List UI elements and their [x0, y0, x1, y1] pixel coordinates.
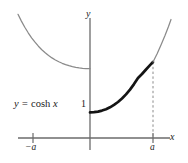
curve-right-thin-segment	[153, 20, 171, 63]
equation-lhs: y =	[14, 98, 31, 109]
x-tick-label-negative-a: −a	[25, 143, 36, 153]
plot-canvas	[0, 0, 188, 163]
curve-bold-zero-to-a	[90, 62, 153, 112]
x-tick-label-a: a	[150, 143, 155, 153]
curve-left-thin-segment	[18, 14, 90, 68]
y-axis-label: y	[86, 9, 90, 19]
cosh-figure: x y −a a 1 y = cosh x	[0, 0, 188, 163]
curve-equation-label: y = cosh x	[14, 99, 58, 110]
equation-function-name: cosh	[31, 98, 50, 109]
equation-argument: x	[50, 98, 57, 109]
y-intercept-label: 1	[81, 99, 86, 109]
x-axis-label: x	[170, 132, 174, 142]
